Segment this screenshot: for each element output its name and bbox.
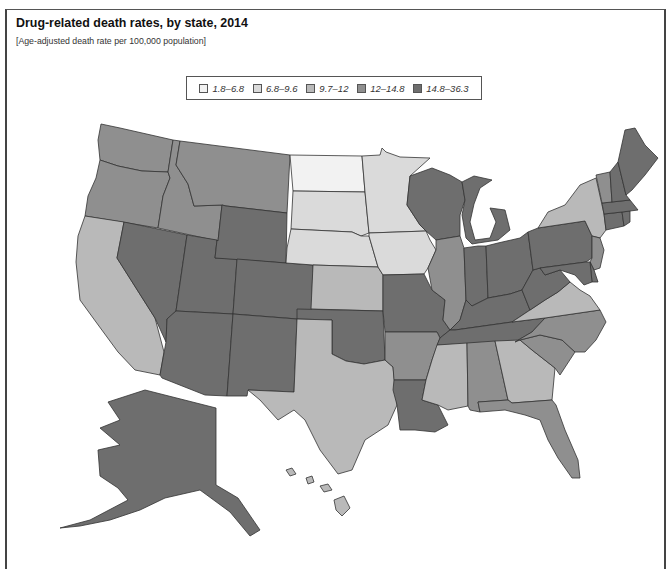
state-IA (369, 231, 436, 275)
state-NJ (590, 236, 604, 270)
state-AK (60, 390, 260, 536)
state-FL (478, 400, 580, 478)
state-KS (311, 265, 383, 311)
state-HI (286, 468, 350, 516)
state-WY (215, 205, 287, 263)
state-AZ (160, 311, 233, 396)
state-ND (290, 155, 365, 192)
state-IN (464, 246, 488, 306)
state-MT (176, 141, 290, 213)
state-MI (462, 176, 510, 244)
state-ME (618, 128, 658, 195)
state-NM (227, 314, 297, 396)
state-CT (604, 212, 624, 230)
